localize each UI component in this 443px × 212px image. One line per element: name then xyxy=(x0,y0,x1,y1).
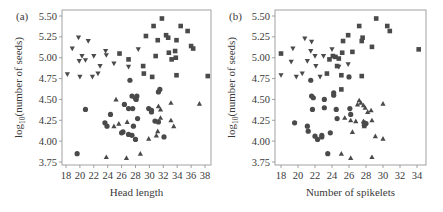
x-tick-label: 28 xyxy=(361,170,372,181)
data-point xyxy=(138,151,143,156)
series-square xyxy=(117,16,210,79)
data-point xyxy=(126,57,131,62)
scatter-plot-b: 3.754.004.254.504.755.005.255.5018202224… xyxy=(222,0,443,212)
y-tick-label: 4.00 xyxy=(252,136,270,147)
data-point xyxy=(155,129,160,134)
data-point xyxy=(339,151,344,156)
data-point xyxy=(108,112,113,117)
data-point xyxy=(292,120,297,125)
data-point xyxy=(322,97,327,102)
data-point xyxy=(359,39,364,44)
data-point xyxy=(83,107,88,112)
data-point xyxy=(149,109,154,114)
y-axis: 3.754.004.254.504.755.005.255.50 xyxy=(39,11,62,168)
data-point xyxy=(313,64,318,69)
data-point xyxy=(334,107,339,112)
data-point xyxy=(146,136,151,141)
data-point xyxy=(342,115,347,120)
x-tick-label: 18 xyxy=(61,170,72,181)
data-point xyxy=(335,64,340,69)
data-point xyxy=(348,112,353,117)
data-point xyxy=(167,50,172,55)
data-point xyxy=(290,46,295,51)
data-point xyxy=(308,78,313,83)
data-point xyxy=(380,101,385,106)
x-tick-label: 22 xyxy=(310,170,321,181)
data-point xyxy=(348,118,353,123)
data-point xyxy=(125,119,130,124)
x-tick-label: 20 xyxy=(293,170,304,181)
scatter-plot-a: 3.754.004.254.504.755.005.255.5018202224… xyxy=(0,0,222,212)
data-point xyxy=(111,124,116,129)
data-point xyxy=(104,154,109,159)
data-point xyxy=(130,106,135,111)
data-point xyxy=(178,24,183,29)
y-tick-label: 5.25 xyxy=(252,31,270,42)
data-point xyxy=(279,51,284,56)
data-point xyxy=(278,73,283,78)
y-tick-label: 4.25 xyxy=(39,115,57,126)
x-axis: 182022242628303234 xyxy=(276,165,423,181)
panel-label: (b) xyxy=(229,10,242,23)
data-point xyxy=(306,129,311,134)
x-tick-label: 30 xyxy=(144,170,155,181)
data-point xyxy=(318,75,323,80)
data-point xyxy=(127,78,132,83)
data-point xyxy=(129,133,134,138)
x-axis: 1820222426283032343638 xyxy=(61,165,211,181)
data-point xyxy=(347,106,352,111)
y-tick-label: 4.50 xyxy=(39,94,57,105)
series-circle xyxy=(292,74,369,156)
chart-panel-b: 3.754.004.254.504.755.005.255.5018202224… xyxy=(222,0,443,212)
y-tick-label: 5.25 xyxy=(39,31,57,42)
data-point xyxy=(370,45,375,50)
data-point xyxy=(335,116,340,121)
data-point xyxy=(90,75,95,80)
x-tick-label: 36 xyxy=(186,170,197,181)
data-point xyxy=(302,36,307,41)
data-point xyxy=(158,115,163,120)
y-tick-label: 5.00 xyxy=(252,52,270,63)
data-point xyxy=(153,54,158,59)
data-point xyxy=(300,71,305,76)
data-point xyxy=(374,16,379,21)
data-point xyxy=(312,54,317,59)
data-point xyxy=(346,33,351,38)
data-point xyxy=(83,58,88,63)
data-point xyxy=(294,75,299,80)
data-point xyxy=(325,151,330,156)
data-point xyxy=(305,59,310,64)
data-point xyxy=(168,118,173,123)
data-point xyxy=(131,124,136,129)
data-point xyxy=(357,24,362,29)
x-tick-label: 24 xyxy=(327,170,338,181)
data-point xyxy=(341,39,346,44)
data-point xyxy=(97,64,102,69)
data-point xyxy=(385,24,390,29)
series-triangle-up xyxy=(104,97,202,160)
data-point xyxy=(346,62,351,67)
data-point xyxy=(373,134,378,139)
data-point xyxy=(142,71,147,76)
panel-label: (a) xyxy=(16,10,29,23)
data-point xyxy=(119,130,124,135)
data-point xyxy=(95,71,100,76)
y-tick-label: 4.75 xyxy=(39,73,57,84)
y-tick-label: 5.00 xyxy=(39,52,57,63)
x-tick-label: 26 xyxy=(116,170,127,181)
data-point xyxy=(134,97,139,102)
chart-panel-a: 3.754.004.254.504.755.005.255.5018202224… xyxy=(0,0,222,212)
data-point xyxy=(117,51,122,56)
x-tick-label: 26 xyxy=(344,170,355,181)
data-point xyxy=(322,105,327,110)
data-point xyxy=(126,65,131,70)
data-point xyxy=(169,57,174,62)
data-point xyxy=(155,38,160,43)
data-point xyxy=(104,53,109,58)
data-point xyxy=(141,64,146,69)
x-tick-label: 24 xyxy=(102,170,113,181)
data-point xyxy=(154,133,159,138)
x-tick-label: 34 xyxy=(412,170,423,181)
data-point xyxy=(308,49,313,54)
data-point xyxy=(369,118,374,123)
